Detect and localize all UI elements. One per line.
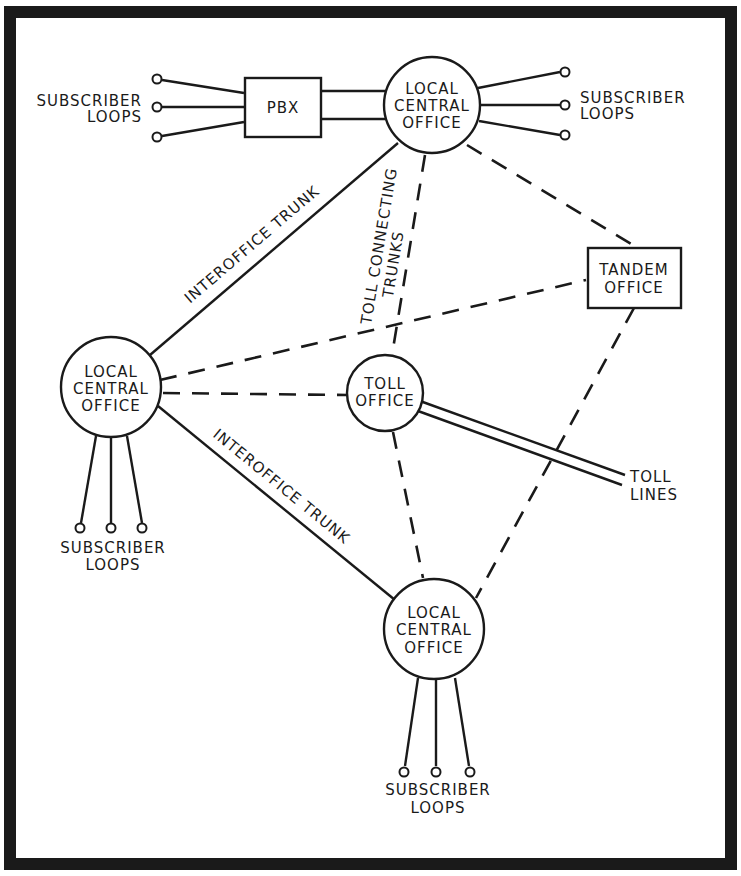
interoffice-trunk-lower-line bbox=[158, 406, 395, 600]
toll-office-label-line2: OFFICE bbox=[355, 392, 414, 410]
terminal-icon bbox=[561, 68, 570, 77]
terminal-icon bbox=[153, 103, 162, 112]
subscriber-loops-bottom-label-line1: SUBSCRIBER bbox=[385, 781, 491, 799]
lco-top-to-tandem-line bbox=[467, 145, 638, 248]
subscriber-loops-left-label-line2: LOOPS bbox=[85, 556, 140, 574]
lco-top-label-line2: CENTRAL bbox=[394, 97, 470, 115]
lco-top-label-line3: OFFICE bbox=[402, 114, 461, 132]
terminal-icon bbox=[153, 133, 162, 142]
local-central-office-bottom: LOCAL CENTRAL OFFICE bbox=[384, 579, 484, 679]
toll-to-lco-bottom-line bbox=[393, 432, 423, 578]
toll-lines-line-upper bbox=[420, 401, 625, 475]
tandem-office-label-line2: OFFICE bbox=[604, 279, 663, 297]
terminal-icon bbox=[400, 768, 409, 777]
connections bbox=[150, 91, 638, 600]
tandem-to-lco-bottom-line bbox=[476, 308, 634, 598]
toll-lines-label-line1: TOLL bbox=[629, 468, 672, 486]
lco-left-label-line2: CENTRAL bbox=[73, 380, 149, 398]
local-central-office-left: LOCAL CENTRAL OFFICE bbox=[61, 337, 161, 437]
terminal-icon bbox=[466, 768, 475, 777]
tandem-office-label-line1: TANDEM bbox=[598, 261, 668, 279]
subscriber-loops-pbx-label-line2: LOOPS bbox=[87, 108, 142, 126]
lco-bottom-label-line2: CENTRAL bbox=[396, 621, 472, 639]
tandem-office-node: TANDEM OFFICE bbox=[588, 248, 681, 308]
subscriber-loops-left: SUBSCRIBER LOOPS bbox=[60, 436, 166, 574]
subscriber-loops-pbx: SUBSCRIBER LOOPS bbox=[36, 75, 244, 142]
interoffice-trunk-upper-label: INTEROFFICE TRUNK bbox=[181, 182, 323, 307]
terminal-icon bbox=[76, 524, 85, 533]
subscriber-loops-top: SUBSCRIBER LOOPS bbox=[478, 68, 686, 140]
lco-bottom-label-line1: LOCAL bbox=[407, 604, 461, 622]
subscriber-loops-bottom-label-line2: LOOPS bbox=[410, 799, 465, 817]
toll-office-node: TOLL OFFICE bbox=[347, 355, 423, 431]
lco-bottom-label-line3: OFFICE bbox=[404, 639, 463, 657]
terminal-icon bbox=[107, 524, 116, 533]
subscriber-loops-left-label-line1: SUBSCRIBER bbox=[60, 539, 166, 557]
subscriber-loops-bottom: SUBSCRIBER LOOPS bbox=[385, 678, 491, 817]
lco-left-to-toll-line bbox=[163, 393, 347, 395]
terminal-icon bbox=[138, 524, 147, 533]
network-diagram: SUBSCRIBER LOOPS SUBSCRIBER LOOPS SUBSCR… bbox=[0, 0, 741, 876]
terminal-icon bbox=[561, 131, 570, 140]
terminal-icon bbox=[153, 75, 162, 84]
toll-lines-label-line2: LINES bbox=[630, 486, 678, 504]
interoffice-trunk-lower-label: INTEROFFICE TRUNK bbox=[209, 425, 353, 548]
terminal-icon bbox=[561, 101, 570, 110]
lco-left-label-line1: LOCAL bbox=[84, 363, 138, 381]
terminal-icon bbox=[432, 768, 441, 777]
lco-top-label-line1: LOCAL bbox=[405, 80, 459, 98]
toll-lines-line-lower bbox=[418, 411, 622, 485]
pbx-node: PBX bbox=[245, 78, 321, 137]
toll-office-label-line1: TOLL bbox=[363, 375, 406, 393]
local-central-office-top: LOCAL CENTRAL OFFICE bbox=[384, 57, 480, 153]
pbx-label: PBX bbox=[267, 99, 300, 117]
subscriber-loops-top-label-line2: LOOPS bbox=[580, 105, 635, 123]
lco-left-label-line3: OFFICE bbox=[81, 397, 140, 415]
